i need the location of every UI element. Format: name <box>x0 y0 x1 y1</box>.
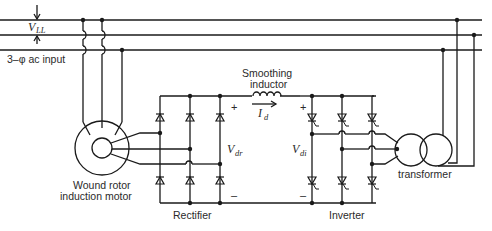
vll-subscript: LL <box>35 25 46 35</box>
transformer-label: transformer <box>398 168 452 180</box>
wound-rotor-motor <box>75 121 129 175</box>
ac-input-label: 3–φ ac input <box>7 53 65 65</box>
vdr-subscript: dr <box>235 148 243 158</box>
id-subscript: d <box>264 112 269 122</box>
id-label: I <box>257 106 263 120</box>
rectifier-label: Rectifier <box>173 209 212 221</box>
transformer-bus-wires <box>438 20 474 166</box>
smoothing-inductor <box>252 90 281 107</box>
vdi-plus: + <box>300 101 306 113</box>
vdr-plus: + <box>231 101 237 113</box>
vdi-minus: – <box>300 189 307 201</box>
motor-supply-wires <box>83 20 122 135</box>
vdi-subscript: di <box>300 148 307 158</box>
transformer <box>395 134 452 166</box>
static-kramer-drive-diagram: V LL 3–φ ac input Wound rotor induction … <box>0 0 492 231</box>
motor-label-line2: induction motor <box>60 190 132 202</box>
ac-bus <box>0 20 482 50</box>
inverter-label: Inverter <box>329 209 365 221</box>
inverter-ac-leads <box>312 131 398 164</box>
vdr-minus: – <box>231 189 238 201</box>
inductor-label-line2: inductor <box>250 78 288 90</box>
rotor-leads <box>111 133 220 164</box>
